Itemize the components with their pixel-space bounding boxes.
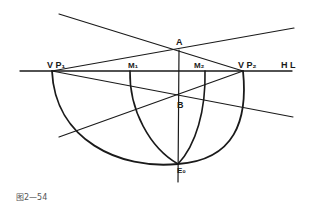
label-a: A [176,37,183,47]
viewing-circle-arc [52,71,244,165]
perspective-diagram: V P₁ M₁ M₂ V P₂ H L A B E₀ 图2—54 [0,0,330,208]
label-vp2: V P₂ [238,60,257,70]
arc-m2-e0 [178,71,205,164]
line-vp1-through-a [52,28,294,71]
label-vp1: V P₁ [47,60,66,70]
label-e0: E₀ [177,166,186,175]
label-b: B [177,100,184,110]
label-hl: H L [281,60,296,70]
line-lower-left-to-vp2 [59,71,243,137]
figure-caption: 图2—54 [16,193,47,202]
label-m2: M₂ [194,61,205,70]
label-m1: M₁ [128,61,139,70]
arc-m1-e0 [130,71,178,164]
line-vp1-through-b [52,71,293,117]
